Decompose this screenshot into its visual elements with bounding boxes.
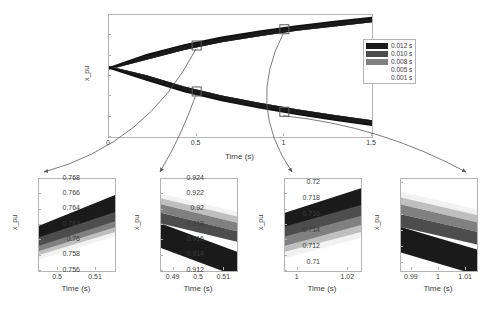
main-y-tickmark — [108, 14, 111, 15]
inset1-y-axis-label: x_pu — [11, 203, 18, 243]
inset2-y-tick: 0.758 — [40, 250, 80, 257]
inset2-y-tick: 0.756 — [40, 266, 80, 273]
inset3-y-tickmark — [284, 239, 287, 240]
inset4-plot-area — [400, 178, 478, 272]
legend-swatch — [366, 51, 388, 57]
inset2-y-tick: 0.76 — [40, 235, 80, 242]
figure-canvas: 0.650.70.750.80.850.90.95 00.511.5 x_pu … — [0, 0, 484, 324]
main-upper-band — [109, 17, 372, 69]
inset1-x-axis-label: Time (s) — [38, 284, 114, 293]
inset2-y-axis-label: x_pu — [133, 203, 140, 243]
inset2-y-tick: 0.762 — [40, 220, 80, 227]
legend-swatch — [366, 75, 388, 81]
inset3-y-tickmark — [284, 255, 287, 256]
main-x-tickmark — [196, 133, 197, 136]
inset3-y-tick: 0.912 — [164, 266, 204, 273]
inset1-x-tick: 0.51 — [80, 273, 110, 280]
legend-swatch — [366, 67, 388, 73]
inset4-y-tickmark — [400, 246, 403, 247]
inset4-y-tick: 0.712 — [280, 242, 320, 249]
inset4-y-tick: 0.714 — [280, 226, 320, 233]
inset2-y-tickmark — [160, 270, 163, 271]
inset4-x-tickmark — [465, 267, 466, 270]
inset3-y-tick: 0.914 — [164, 250, 204, 257]
inset4-x-tick: 1.01 — [450, 273, 480, 280]
inset4-y-tick: 0.72 — [280, 178, 320, 185]
inset3-y-tick: 0.922 — [164, 189, 204, 196]
inset4-y-axis-label: x_pu — [373, 203, 380, 243]
main-y-tickmark — [108, 75, 111, 76]
inset3-y-tick: 0.918 — [164, 220, 204, 227]
inset4-y-tickmark — [400, 230, 403, 231]
inset3-y-tickmark — [284, 270, 287, 271]
inset2-y-tickmark — [160, 193, 163, 194]
inset3-x-tick: 1 — [282, 273, 312, 280]
inset3-y-tick: 0.92 — [164, 204, 204, 211]
inset2-x-tickmark — [223, 267, 224, 270]
legend-swatch — [366, 43, 388, 49]
inset4-y-tickmark — [400, 214, 403, 215]
inset1-x-tick: 0.5 — [42, 273, 72, 280]
main-x-tickmark — [371, 133, 372, 136]
inset4-y-tick: 0.716 — [280, 210, 320, 217]
inset4-series-layer — [401, 179, 477, 271]
legend-label: 0.001 s — [391, 74, 412, 81]
inset2-y-tickmark — [160, 224, 163, 225]
main-x-tickmark — [108, 133, 109, 136]
legend-label: 0.010 s — [391, 50, 412, 57]
inset4-y-tick: 0.718 — [280, 194, 320, 201]
inset3-x-tickmark — [297, 267, 298, 270]
inset3-x-tick: 1.02 — [332, 273, 362, 280]
inset2-y-tick: 0.766 — [40, 189, 80, 196]
main-upper-band — [109, 20, 372, 70]
main-lower-band — [109, 66, 372, 123]
main-plot-area — [108, 14, 373, 138]
inset4-y-tickmark — [400, 198, 403, 199]
inset3-y-tick: 0.924 — [164, 174, 204, 181]
inset1-x-tickmark — [95, 267, 96, 270]
inset2-x-tick: 0.51 — [208, 273, 238, 280]
legend-swatch — [366, 59, 388, 65]
legend-label: 0.008 s — [391, 58, 412, 65]
main-x-tick: 1 — [268, 139, 298, 146]
inset2-y-tickmark — [160, 209, 163, 210]
inset2-y-tickmark — [160, 178, 163, 179]
main-x-tickmark — [283, 133, 284, 136]
main-series-layer — [109, 15, 372, 137]
legend-label: 0.005 s — [391, 66, 412, 73]
inset2-y-tick: 0.764 — [40, 204, 80, 211]
inset4-x-tick: 0.99 — [396, 273, 426, 280]
legend-entry: 0.001 s — [366, 74, 412, 81]
inset2-x-axis-label: Time (s) — [160, 284, 236, 293]
legend-entry: 0.005 s — [366, 66, 412, 73]
inset3-x-tickmark — [347, 267, 348, 270]
main-upper-band — [109, 19, 372, 69]
inset3-y-tick: 0.916 — [164, 235, 204, 242]
inset4-y-tickmark — [400, 182, 403, 183]
main-lower-band — [109, 66, 372, 125]
main-lower-band — [109, 66, 372, 122]
inset4-y-tickmark — [400, 262, 403, 263]
inset4-x-tickmark — [411, 267, 412, 270]
legend-entry: 0.008 s — [366, 58, 412, 65]
legend-entry: 0.012 s — [366, 42, 412, 49]
main-y-axis-label: x_pu — [83, 54, 90, 94]
main-x-tick: 0 — [93, 139, 123, 146]
main-upper-band — [109, 21, 372, 70]
inset4-x-axis-label: Time (s) — [400, 284, 476, 293]
main-y-tickmark — [108, 34, 111, 35]
main-y-tickmark — [108, 136, 111, 137]
inset4-y-tick: 0.71 — [280, 258, 320, 265]
main-y-tickmark — [108, 116, 111, 117]
legend-entry: 0.010 s — [366, 50, 412, 57]
main-x-tick: 0.5 — [181, 139, 211, 146]
main-y-tickmark — [108, 55, 111, 56]
inset2-y-tick: 0.768 — [40, 174, 80, 181]
inset3-y-axis-label: x_pu — [257, 203, 264, 243]
inset4-x-tick: 1 — [423, 273, 453, 280]
legend-label: 0.012 s — [391, 42, 412, 49]
inset2-y-tickmark — [160, 239, 163, 240]
main-x-axis-label: Time (s) — [108, 152, 371, 161]
inset2-y-tickmark — [160, 255, 163, 256]
main-y-tickmark — [108, 95, 111, 96]
